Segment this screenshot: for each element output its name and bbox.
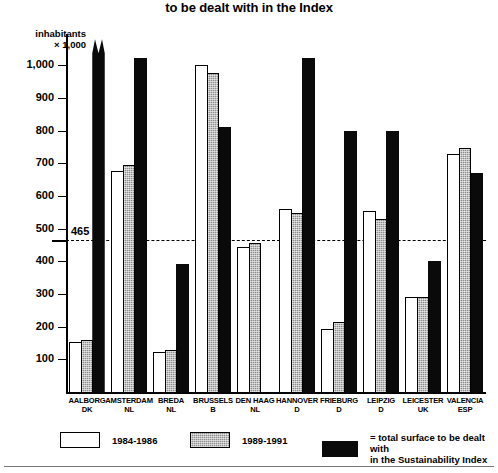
bar-brussels-black — [218, 127, 231, 392]
city-name: VALENCIA — [447, 396, 484, 405]
bar-aalborg-gray — [81, 340, 94, 392]
legend-item-gray: 1989-1991 — [190, 432, 287, 448]
bar-amsterdam-black — [134, 58, 147, 392]
bar-leicester-gray — [417, 297, 430, 392]
legend-swatch-black — [322, 441, 358, 457]
footer-divider — [4, 466, 494, 467]
bar-breda-white — [153, 352, 166, 392]
bar-leipzig-black — [386, 131, 399, 392]
y-tick-label-500: 500 — [6, 222, 54, 234]
bar-aalborg-white — [69, 342, 82, 392]
city-name: FRIEBURG — [320, 396, 358, 405]
bar-hannover-white — [279, 209, 292, 392]
bar-amsterdam-gray — [123, 165, 136, 392]
legend-swatch-white — [60, 432, 100, 448]
country-code: UK — [418, 405, 429, 414]
city-name: DEN HAAG — [236, 396, 275, 405]
y-tick-label-200: 200 — [6, 320, 54, 332]
bar-frieburg-white — [321, 329, 334, 392]
bar-hannover-black — [302, 58, 315, 392]
y-tick-label-300: 300 — [6, 287, 54, 299]
bar-leipzig-gray — [375, 219, 388, 392]
bar-den-haag-white — [237, 247, 250, 392]
bar-leipzig-white — [363, 211, 376, 392]
legend-swatch-gray — [190, 432, 230, 448]
x-axis-line — [66, 392, 486, 394]
country-code: NL — [124, 405, 134, 414]
x-axis-category-labels: AALBORGDKAMSTERDAMNLBREDANLBRUSSELSBDEN … — [66, 396, 486, 426]
country-code: NL — [250, 405, 260, 414]
city-name: BRUSSELS — [193, 396, 233, 405]
bar-leicester-white — [405, 297, 418, 392]
country-code: ESP — [458, 405, 473, 414]
chart-title: to be dealt with in the Index — [0, 0, 498, 15]
country-code: NL — [166, 405, 176, 414]
bar-breda-gray — [165, 350, 178, 392]
bar-valencia-white — [447, 154, 460, 392]
y-tick-label-600: 600 — [6, 189, 54, 201]
legend-label-white: 1984-1986 — [112, 435, 157, 446]
bar-amsterdam-white — [111, 171, 124, 392]
country-code: B — [210, 405, 215, 414]
plot-area — [66, 38, 486, 392]
bar-brussels-gray — [207, 73, 220, 393]
country-code: D — [294, 405, 299, 414]
x-axis-label-valencia: VALENCIAESP — [438, 396, 492, 414]
country-code: DK — [82, 405, 93, 414]
y-tick-label-100: 100 — [6, 352, 54, 364]
y-tick-label-900: 900 — [6, 91, 54, 103]
bar-aalborg-black — [92, 39, 105, 392]
city-name: AALBORG — [69, 396, 106, 405]
bar-valencia-gray — [459, 148, 472, 392]
chart-legend: 1984-19861989-1991= total surface to be … — [60, 432, 492, 462]
y-tick-label-1000: 1,000 — [6, 58, 54, 70]
legend-label-black: = total surface to be dealt with in the … — [370, 432, 492, 465]
y-tick-label-700: 700 — [6, 156, 54, 168]
chart-page: to be dealt with in the Index inhabitant… — [0, 0, 498, 473]
legend-item-white: 1984-1986 — [60, 432, 157, 448]
legend-label-gray: 1989-1991 — [242, 435, 287, 446]
bar-frieburg-gray — [333, 322, 346, 392]
country-code: D — [336, 405, 341, 414]
bar-den-haag-gray — [249, 243, 262, 392]
legend-item-black: = total surface to be dealt with in the … — [322, 432, 492, 465]
bar-valencia-black — [470, 173, 483, 392]
y-tick-label-800: 800 — [6, 124, 54, 136]
bar-frieburg-black — [344, 131, 357, 392]
y-tick-label-400: 400 — [6, 254, 54, 266]
bar-leicester-black — [428, 261, 441, 392]
country-code: D — [378, 405, 383, 414]
city-name: BREDA — [158, 396, 184, 405]
bar-breda-black — [176, 264, 189, 392]
bar-brussels-white — [195, 65, 208, 392]
city-name: LEIPZIG — [367, 396, 395, 405]
bar-hannover-gray — [291, 213, 304, 392]
